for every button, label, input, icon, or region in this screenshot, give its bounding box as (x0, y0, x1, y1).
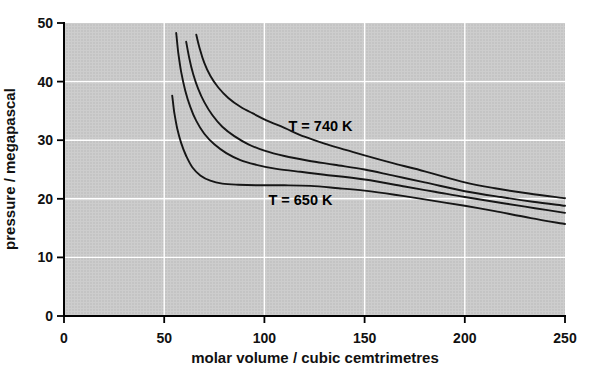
plot-background (64, 23, 565, 316)
y-axis-title: pressure / megapascal (1, 88, 18, 250)
y-tick-label: 10 (37, 249, 53, 265)
plot-area: T = 740 KT = 650 K0102030405005010015020… (37, 15, 576, 346)
x-tick-label: 150 (353, 330, 377, 346)
curve-annotation: T = 650 K (268, 192, 333, 208)
x-axis-title: molar volume / cubic cemtrimetres (191, 349, 439, 366)
y-tick-label: 20 (37, 191, 53, 207)
y-tick-label: 50 (37, 15, 53, 31)
y-tick-label: 40 (37, 74, 53, 90)
x-tick-label: 0 (60, 330, 68, 346)
chart-figure: T = 740 KT = 650 K0102030405005010015020… (0, 0, 590, 384)
x-tick-label: 200 (453, 330, 477, 346)
y-tick-label: 0 (45, 308, 53, 324)
x-tick-label: 100 (253, 330, 277, 346)
x-tick-label: 50 (156, 330, 172, 346)
curve-annotation: T = 740 K (288, 118, 353, 134)
pv-isotherm-chart: T = 740 KT = 650 K0102030405005010015020… (0, 0, 590, 384)
x-tick-label: 250 (553, 330, 577, 346)
y-tick-label: 30 (37, 132, 53, 148)
